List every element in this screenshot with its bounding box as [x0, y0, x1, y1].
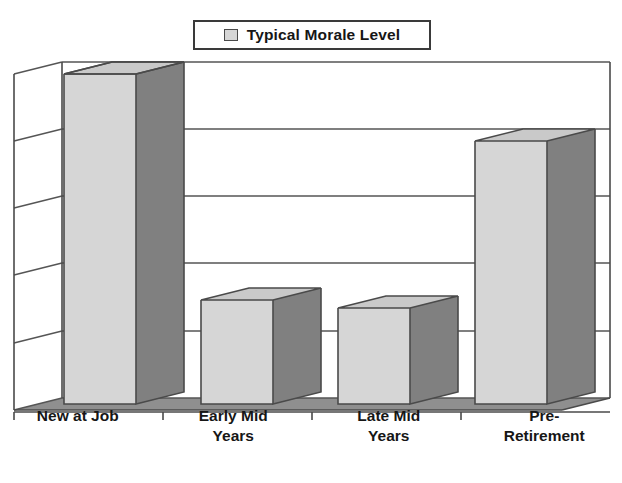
x-label-line1: New at Job — [4, 406, 152, 426]
x-label-line2: Years — [160, 426, 308, 446]
x-axis-labels: New at Job Early Mid Years Late Mid Year… — [0, 406, 622, 478]
bar-early-mid-years — [201, 288, 321, 404]
x-axis-label-new-at-job: New at Job — [0, 406, 156, 478]
plot-area: .ln { stroke:#4a4a4a; stroke-width:1.6; … — [0, 0, 622, 420]
x-label-line1: Pre- — [471, 406, 619, 426]
x-label-line1: Late Mid — [315, 406, 463, 426]
bar-pre-retirement — [475, 129, 595, 404]
x-axis-label-late-mid-years: Late Mid Years — [311, 406, 467, 478]
x-label-line1: Early Mid — [160, 406, 308, 426]
x-label-line2: Years — [315, 426, 463, 446]
chart-container: Typical Morale Level .ln { stroke:#4a4a4… — [0, 0, 622, 483]
x-label-line2: Retirement — [471, 426, 619, 446]
bar-late-mid-years — [338, 296, 458, 404]
x-axis-label-early-mid-years: Early Mid Years — [156, 406, 312, 478]
x-axis-label-pre-retirement: Pre- Retirement — [467, 406, 622, 478]
bar-new-at-job — [64, 62, 184, 404]
